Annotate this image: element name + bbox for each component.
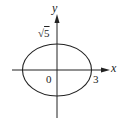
x-axis-label: x [111,62,116,74]
x-axis-arrow-icon [101,68,110,73]
x-intercept-label: 3 [93,74,99,85]
y-intercept-label: √5 [38,28,50,39]
y-axis-arrow-icon [55,14,60,23]
origin-label: 0 [46,74,52,85]
y-intercept-radicand: 5 [44,27,50,39]
ellipse-diagram [0,0,123,125]
y-axis-label: y [52,2,57,14]
